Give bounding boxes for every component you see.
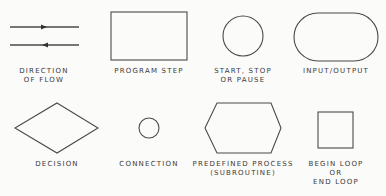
direction-of-flow-label: DIRECTION OF FLOW	[19, 67, 69, 85]
start-stop-pause-label: START, STOP OR PAUSE	[214, 67, 272, 85]
decision-diamond-icon	[15, 103, 98, 153]
predefined-process-label: PREDEFINED PROCESS (SUBROUTINE)	[192, 160, 293, 178]
connection-label: CONNECTION	[119, 160, 178, 169]
begin-end-loop-square-icon	[318, 112, 353, 148]
begin-end-loop-label: BEGIN LOOP OR END LOOP	[308, 160, 363, 187]
program-step-label: PROGRAM STEP	[114, 67, 183, 76]
program-step-rectangle-icon	[111, 12, 187, 60]
input-output-label: INPUT/OUTPUT	[303, 67, 369, 76]
input-output-pill-icon	[294, 13, 378, 61]
start-stop-pause-circle-icon	[223, 16, 263, 56]
direction-of-flow-arrows-icon	[10, 25, 79, 48]
connection-circle-icon	[139, 118, 159, 138]
decision-label: DECISION	[35, 160, 79, 169]
predefined-process-hexagon-icon	[205, 103, 281, 153]
